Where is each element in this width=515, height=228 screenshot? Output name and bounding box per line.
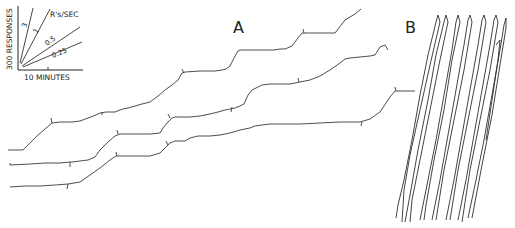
legend-rate-3: 3: [20, 22, 29, 29]
legend-rate-header: R's/SEC: [50, 10, 78, 19]
legend-x-label: 10 MINUTES: [24, 73, 70, 82]
rate-legend: 3 1 0.5 0.25 R's/SEC 300 RESPONSES 10 MI…: [5, 6, 83, 82]
figure-canvas: 3 1 0.5 0.25 R's/SEC 300 RESPONSES 10 MI…: [0, 0, 515, 228]
panel-b-label: B: [405, 18, 416, 37]
panel-b-records: [396, 15, 506, 222]
panel-a-label: A: [233, 18, 244, 37]
legend-rate-0.5: 0.5: [43, 35, 57, 48]
rate-line-1: [21, 9, 50, 64]
record-3: [10, 87, 415, 189]
legend-y-label: 300 RESPONSES: [5, 8, 14, 70]
record-2: [10, 45, 388, 167]
rate-line-3: [20, 8, 33, 63]
legend-rate-0.25: 0.25: [51, 47, 68, 60]
